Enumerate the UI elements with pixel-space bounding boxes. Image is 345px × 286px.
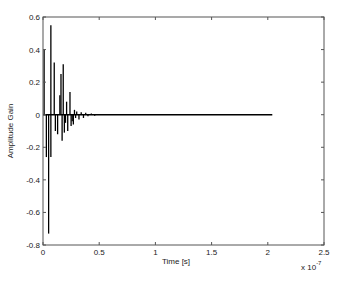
y-tick-label: 0.2 (29, 78, 41, 87)
y-axis-ticks: 0.60.40.20-0.2-0.4-0.6-0.8 (26, 13, 324, 250)
x-tick-label: 1.5 (206, 248, 218, 257)
y-tick-label: -0.6 (26, 208, 40, 217)
x-tick-label: 2.5 (318, 248, 330, 257)
y-tick-label: 0.4 (29, 46, 41, 55)
axes-box (43, 17, 324, 245)
x-tick-label: 0 (41, 248, 46, 257)
x-tick-label: 1 (153, 248, 158, 257)
impulse-response-series (43, 25, 272, 233)
y-tick-label: 0.6 (29, 13, 41, 22)
amplitude-gain-chart: 00.511.522.5 0.60.40.20-0.2-0.4-0.6-0.8 … (0, 0, 345, 286)
y-axis-label: Amplitude Gain (6, 104, 15, 159)
x-tick-label: 0.5 (94, 248, 106, 257)
x-axis-ticks: 00.511.522.5 (41, 17, 330, 257)
y-tick-label: -0.8 (26, 241, 40, 250)
x-tick-label: 2 (266, 248, 271, 257)
y-tick-label: -0.2 (26, 143, 40, 152)
y-tick-label: -0.4 (26, 176, 40, 185)
x-multiplier-label: x 10-7 (301, 260, 322, 272)
y-tick-label: 0 (36, 111, 41, 120)
x-axis-label: Time [s] (162, 257, 190, 266)
